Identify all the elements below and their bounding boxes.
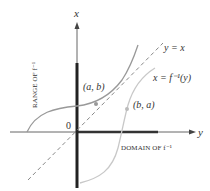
identity-line-label: y = x: [164, 43, 185, 53]
point-ab-label: (a, b): [83, 82, 105, 92]
domain-label: DOMAIN OF f⁻¹: [121, 145, 172, 152]
point-ba-marker: [125, 107, 129, 111]
point-ab-marker: [94, 102, 98, 106]
origin-label: 0: [66, 121, 71, 131]
range-label: RANGE OF f⁻¹: [32, 62, 39, 108]
horizontal-axis-arrow-icon: [189, 130, 196, 135]
point-ba-label: (b, a): [133, 100, 155, 110]
vertical-axis-arrow-icon: [75, 22, 80, 29]
inverse-equation-label: x = f⁻¹(y): [153, 73, 191, 83]
horizontal-axis-label: y: [198, 127, 203, 138]
vertical-axis-label: x: [74, 8, 79, 19]
